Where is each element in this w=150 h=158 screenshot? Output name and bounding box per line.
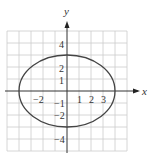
svg-text:2: 2 [59,63,64,74]
svg-text:3: 3 [101,94,106,105]
x-axis-label: x [141,85,147,97]
svg-text:1: 1 [77,94,82,105]
svg-text:−2: −2 [54,110,65,121]
svg-text:4: 4 [59,39,64,50]
ellipse-diagram: x y −2 1 2 3 4 2 1 −1 −2 −4 [0,0,150,158]
svg-text:2: 2 [89,94,94,105]
svg-text:1: 1 [59,75,64,86]
x-axis-arrow-icon [133,89,140,94]
y-axis-label: y [63,5,69,17]
y-axis-arrow-icon [65,21,70,28]
svg-text:−4: −4 [54,134,65,145]
svg-text:−2: −2 [33,94,44,105]
svg-text:−1: −1 [54,98,65,109]
